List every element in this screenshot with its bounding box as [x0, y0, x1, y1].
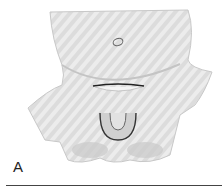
divider-rule — [6, 185, 222, 186]
panel-label: A — [13, 158, 23, 175]
anatomical-illustration — [0, 0, 222, 190]
illustration-svg — [0, 0, 222, 190]
